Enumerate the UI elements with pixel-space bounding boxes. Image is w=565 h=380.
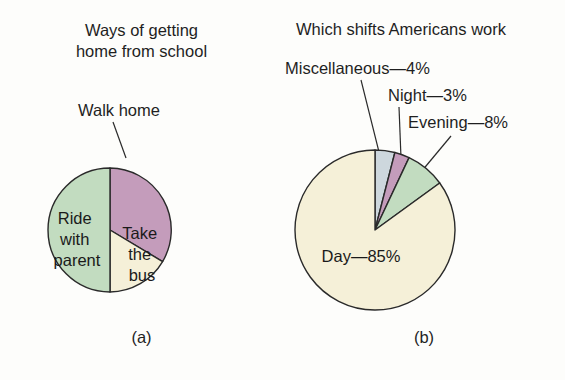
leader-line-evening [421,136,451,172]
figure-caption-b: (b) [283,328,565,347]
figure-caption-a: (a) [0,328,283,347]
pie-chart-panel-a: Ways of getting home from school Walk ho… [0,0,283,380]
leader-line-miscellaneous [361,80,379,152]
pie-slice-label-ride-with-parent: Ride with parent [54,209,101,269]
chart-a-svg: Ride with parent Take the bus [0,0,283,380]
leader-line-night [399,107,401,158]
pie-slice-label-day: Day—85% [322,247,401,265]
figure-root: Ways of getting home from school Walk ho… [0,0,565,380]
chart-b-svg: Day—85% [283,0,565,380]
pie-chart-panel-b: Which shifts Americans work Miscellaneou… [283,0,565,380]
leader-line-walk-home [113,122,126,158]
